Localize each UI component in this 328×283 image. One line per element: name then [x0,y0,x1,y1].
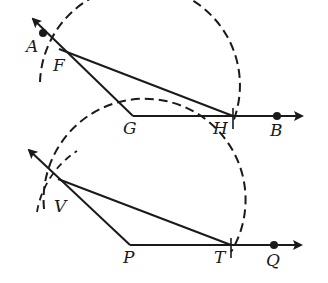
point-b-dot [273,112,281,120]
ray-pv [29,150,130,245]
label-q: Q [266,250,280,270]
point-a-dot [39,29,47,37]
label-p: P [122,247,135,267]
segment-fh [59,49,233,116]
label-g: G [123,118,137,138]
label-f: F [52,55,66,75]
label-t: T [214,247,227,267]
label-b: B [269,120,283,140]
point-q-dot [270,241,278,249]
bottom-figure: V P T Q [29,99,301,270]
arc-top [40,0,240,122]
segment-vt [58,179,231,245]
label-a: A [24,36,38,56]
geometry-diagram: A F G H B V P T Q [0,0,328,283]
top-figure: A F G H B [24,0,302,140]
label-v: V [54,196,68,216]
